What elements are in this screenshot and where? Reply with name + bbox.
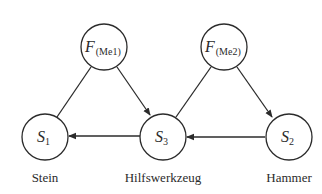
diagram-canvas: F(Me1) F(Me2) S1 S3 S2 Stein Hilfswerkze…: [0, 0, 322, 194]
edge-f1-s3: [117, 67, 150, 115]
node-f-me2: F(Me2): [201, 24, 247, 70]
edge-f2-s2: [237, 67, 272, 117]
node-s3: S3: [140, 114, 186, 160]
edge-f1-s1: [57, 67, 91, 117]
node-s2: S2: [266, 114, 312, 160]
caption-stein: Stein: [32, 170, 59, 185]
caption-hammer: Hammer: [266, 170, 312, 185]
caption-hilfswerkzeug: Hilfswerkzeug: [125, 170, 202, 185]
node-f-me1: F(Me1): [81, 24, 127, 70]
edge-f2-s3: [176, 67, 211, 117]
node-s1: S1: [22, 114, 68, 160]
